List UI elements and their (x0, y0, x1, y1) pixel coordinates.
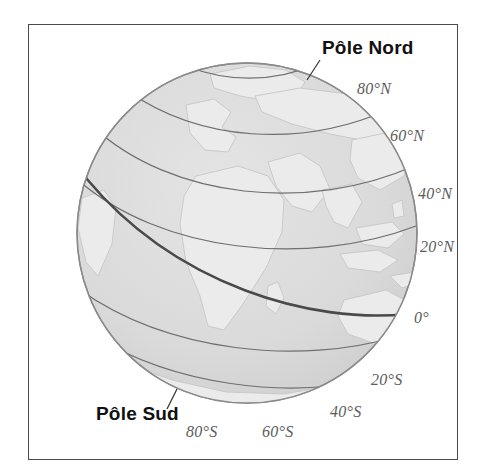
latitude-label-80s: 80°S (186, 424, 218, 440)
latitude-label-80n: 80°N (357, 81, 391, 97)
latitude-label-equator: 0° (414, 310, 429, 326)
globe-figure: Pôle Nord Pôle Sud 80°N 60°N 40°N 20°N 0… (0, 0, 490, 475)
south-pole-label: Pôle Sud (96, 404, 179, 423)
latitude-label-40s: 40°S (330, 404, 362, 420)
latitude-label-20s: 20°S (371, 372, 403, 388)
north-pole-label: Pôle Nord (322, 38, 414, 57)
globe-illustration (0, 0, 490, 475)
latitude-label-40n: 40°N (418, 186, 452, 202)
latitude-label-60s: 60°S (262, 424, 294, 440)
latitude-label-60n: 60°N (390, 128, 424, 144)
latitude-label-20n: 20°N (420, 239, 454, 255)
